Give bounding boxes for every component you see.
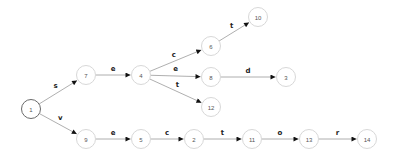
state-node-3: 3	[277, 68, 296, 87]
edge-label: t	[230, 22, 234, 30]
state-node-12: 12	[202, 98, 221, 117]
state-node-8: 8	[202, 68, 221, 87]
state-node-10: 10	[249, 8, 268, 27]
edge-1-7	[39, 81, 77, 104]
edge-label: t	[221, 129, 225, 137]
edge-label: d	[245, 67, 250, 75]
state-node-7: 7	[77, 66, 96, 85]
state-node-1: 1	[22, 100, 41, 119]
node-label: 11	[249, 137, 256, 143]
node-label: 10	[255, 15, 262, 21]
state-node-5: 5	[132, 130, 151, 149]
state-node-11: 11	[243, 130, 262, 149]
state-node-9: 9	[77, 130, 96, 149]
node-label: 12	[208, 105, 215, 111]
edge-label: e	[173, 65, 178, 73]
state-graph: svecettdector 1746108312952111314	[0, 0, 394, 157]
state-node-13: 13	[300, 130, 319, 149]
edge-label: v	[58, 114, 63, 122]
node-label: 13	[306, 137, 313, 143]
edge-label: t	[176, 81, 180, 89]
state-node-2: 2	[185, 130, 204, 149]
edge-label: r	[336, 129, 340, 137]
state-node-4: 4	[132, 66, 151, 85]
nodes-layer: 1746108312952111314	[22, 8, 377, 149]
edge-label: s	[54, 82, 58, 90]
edge-label: c	[165, 129, 169, 137]
edge-4-8	[150, 75, 200, 76]
edge-label: o	[278, 129, 283, 137]
state-node-14: 14	[358, 130, 377, 149]
state-node-6: 6	[202, 37, 221, 56]
edge-label: e	[111, 65, 116, 73]
node-label: 14	[364, 137, 371, 143]
edge-label: e	[111, 129, 116, 137]
edge-6-10	[219, 23, 249, 41]
edge-label: c	[172, 51, 176, 59]
